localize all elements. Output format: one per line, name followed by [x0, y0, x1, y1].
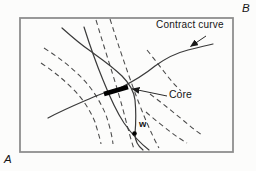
contract-curve-arrow	[191, 36, 207, 47]
dashed-indifference-curve-right-upper	[147, 50, 181, 91]
contract-curve	[48, 44, 213, 118]
origin-b-label: B	[242, 3, 250, 15]
origin-a-label: A	[4, 154, 12, 166]
core-label: Core	[169, 89, 192, 100]
core-arrow	[132, 89, 167, 96]
endowment-point	[132, 131, 137, 136]
edgeworth-box-figure: Contract curve Core w A B	[0, 0, 256, 171]
dashed-indifference-curve-right-lower	[146, 112, 187, 143]
dashed-indifference-curves	[41, 19, 202, 149]
endowment-label: w	[139, 119, 146, 129]
contract-curve-label: Contract curve	[156, 20, 224, 30]
dashed-indifference-curve-right-middle	[150, 94, 202, 135]
dashed-indifference-curve-left-lower	[41, 63, 101, 144]
dashed-indifference-curve-left-upper	[44, 48, 113, 144]
dashed-indifference-curve-middle-steep-2	[110, 19, 159, 148]
